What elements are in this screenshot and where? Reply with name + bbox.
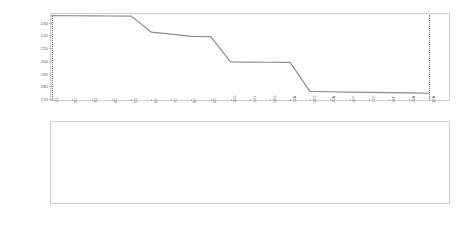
series-svg-top: [0, 0, 468, 116]
series-svg-bottom: [0, 116, 468, 232]
chart-panel-bottom: 205020252000197519501925 347C348A349A350…: [0, 116, 468, 232]
data-series-line-top: [52, 16, 429, 94]
chart-panel-top: 230220210200190180170 1G2C3G4C5G6C7C8C9C…: [0, 0, 468, 116]
